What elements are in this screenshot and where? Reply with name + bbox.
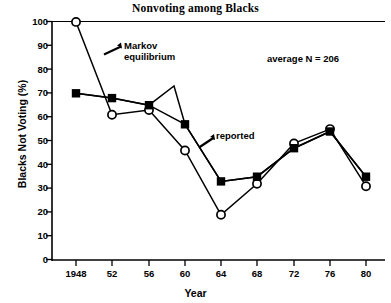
data-point [253,173,261,181]
axes [52,21,385,261]
data-point [181,120,189,128]
data-point [362,173,370,181]
data-point [326,127,334,135]
annotation-arrow-markov-icon [103,43,122,56]
y-axis-ticks [46,22,52,260]
data-point [181,146,189,154]
annotation-arrow-reported-icon [198,134,215,148]
series-reported [72,86,370,186]
data-point [72,89,80,97]
data-point [108,94,116,102]
data-point [108,111,116,119]
data-point [253,180,261,188]
x-axis-ticks [76,260,366,266]
data-point [290,144,298,152]
data-point [217,211,225,219]
data-point [145,101,153,109]
data-point [362,182,370,190]
chart-figure: Nonvoting among Blacks Blacks Not Voting… [0,0,391,303]
chart-plot-svg [0,0,391,303]
data-point [72,18,80,26]
data-point [217,177,225,185]
